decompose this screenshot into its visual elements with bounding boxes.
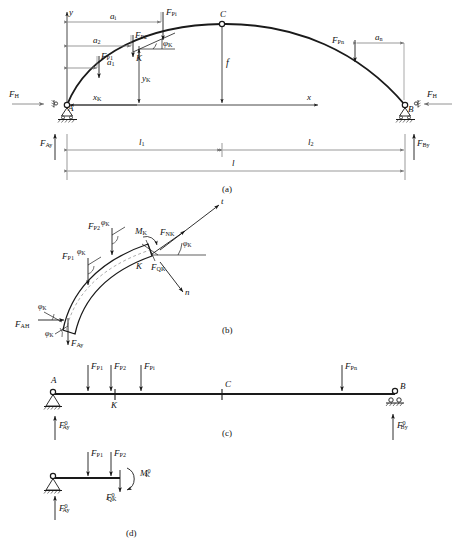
mk-label: MK	[135, 227, 147, 236]
thrust-left-label: FH	[9, 90, 19, 99]
node-label-a: A	[68, 104, 74, 113]
reaction-label-fay0-c: F0Ay	[59, 420, 69, 430]
xk-label: xK	[93, 93, 101, 102]
phi-k-label-b-ay: φK	[45, 330, 53, 338]
span-label-l: l	[232, 159, 235, 168]
load-label-fp2: FP2	[135, 31, 147, 40]
thrust-right-label: FH	[427, 90, 437, 99]
rise-label-f: f	[226, 58, 229, 68]
phi-k-label-b-load2: φK	[101, 219, 109, 227]
node-label-c-c: C	[225, 380, 231, 389]
load-label-fp2-c: FP2	[114, 362, 126, 371]
x-axis-label: x	[307, 93, 311, 102]
span-label-l2: l2	[308, 138, 314, 147]
tangent-axis-label-t: t	[221, 197, 224, 206]
node-label-a-c: A	[51, 376, 57, 385]
node-label-k: K	[136, 54, 142, 63]
fah-label: FAH	[15, 320, 29, 329]
load-label-fp1-b: FP1	[62, 252, 74, 261]
panel-b-graphics	[38, 205, 219, 345]
load-label-fp1-d: FP1	[91, 449, 103, 458]
phi-k-label-b-ah: φK	[38, 303, 46, 311]
panel-caption-c: (c)	[222, 428, 232, 438]
fqk-label: FQK	[151, 263, 165, 272]
fp2-phi-ref	[112, 227, 125, 235]
node-label-b-c: B	[400, 382, 406, 391]
reaction-label-fby: FBy	[417, 139, 430, 148]
distance-label-an: an	[375, 33, 383, 42]
phi-k-label-a: φK	[163, 39, 172, 48]
fp2-phi-arc	[112, 236, 118, 244]
panel-a-graphics	[12, 12, 452, 180]
support-a-d	[44, 473, 62, 493]
distance-label-ai: ai	[110, 12, 116, 21]
distance-label-a1: a1	[107, 58, 115, 67]
normal-axis-label-n: n	[185, 288, 190, 297]
node-label-b: B	[408, 105, 414, 114]
crown-hinge	[219, 21, 224, 26]
load-label-fp1-c: FP1	[91, 362, 103, 371]
node-label-c: C	[220, 10, 226, 19]
fqk0-label: F0QK	[106, 492, 116, 502]
panel-d-graphics	[44, 452, 134, 520]
arch-segment-body	[63, 244, 152, 334]
phi-k-angle-arc	[153, 44, 157, 50]
span-label-l1: l1	[139, 138, 145, 147]
load-label-fpn: FPn	[332, 36, 344, 45]
load-label-fpn-c: FPn	[345, 362, 357, 371]
fnk-label: FNK	[160, 228, 174, 237]
yk-label: yK	[142, 74, 150, 83]
mk-moment-arc	[143, 236, 157, 245]
panel-caption-a: (a)	[222, 184, 232, 194]
load-label-fp2-d: FP2	[114, 449, 126, 458]
fah-phi-ref	[44, 312, 62, 322]
load-label-fpi: FPi	[166, 8, 177, 17]
support-a-c	[44, 389, 62, 409]
y-axis-label: y	[69, 8, 73, 17]
fay-label-b: FAy	[71, 339, 83, 348]
mk0-label: M0K	[140, 468, 150, 478]
mk0-moment-arc	[127, 468, 134, 490]
reaction-label-fay0-d: F0Ay	[59, 503, 69, 513]
panel-caption-d: (d)	[126, 528, 137, 538]
reaction-label-fby0-c: F0By	[397, 420, 408, 430]
phi-k-arc-section	[178, 243, 182, 255]
phi-k-label-b-section: φK	[183, 240, 191, 248]
load-label-fpi-c: FPi	[144, 362, 155, 371]
section-label-k-c: K	[111, 401, 117, 410]
arch-curve	[67, 24, 405, 105]
support-b-c	[386, 388, 404, 406]
engineering-figure: y x A B C K FH FH FP1 FP2 FPi FPn a1 a2 …	[0, 0, 454, 548]
section-label-k-b: K	[136, 262, 142, 271]
reaction-label-fay: FAy	[40, 139, 52, 148]
phi-k-label-b-load1: φK	[77, 248, 85, 256]
panel-caption-b: (b)	[222, 325, 233, 335]
load-label-fp2-b: FP2	[88, 222, 100, 231]
distance-label-a2: a2	[93, 36, 101, 45]
fp1-phi-ref	[88, 257, 101, 265]
figure-canvas	[0, 0, 454, 548]
fp1-phi-arc	[88, 266, 94, 274]
